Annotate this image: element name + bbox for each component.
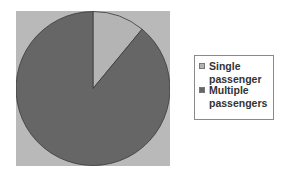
pie-plot-area bbox=[16, 11, 170, 166]
chart-legend: Single passenger Multiple passengers bbox=[194, 55, 274, 120]
legend-label: Single passenger bbox=[209, 60, 275, 86]
legend-swatch-multiple bbox=[199, 87, 205, 93]
legend-label: Multiple passengers bbox=[209, 84, 275, 110]
legend-swatch-single bbox=[199, 63, 205, 69]
pie-slice-multiple-passengers bbox=[16, 12, 170, 166]
legend-item-multiple-passengers: Multiple passengers bbox=[199, 84, 275, 110]
legend-item-single-passenger: Single passenger bbox=[199, 60, 275, 86]
pie-chart bbox=[16, 11, 170, 166]
